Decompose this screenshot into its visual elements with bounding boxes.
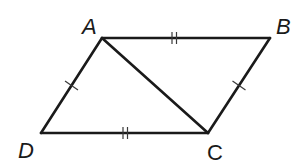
tick-mark-AD xyxy=(65,81,78,90)
vertex-label-A: A xyxy=(80,14,97,39)
vertex-label-C: C xyxy=(207,140,223,165)
vertex-label-D: D xyxy=(18,138,34,163)
parallelogram-diagram: A B C D xyxy=(0,0,297,168)
tick-mark-BC xyxy=(233,81,246,90)
vertex-label-B: B xyxy=(276,14,291,39)
diagonal-AC xyxy=(102,38,208,133)
